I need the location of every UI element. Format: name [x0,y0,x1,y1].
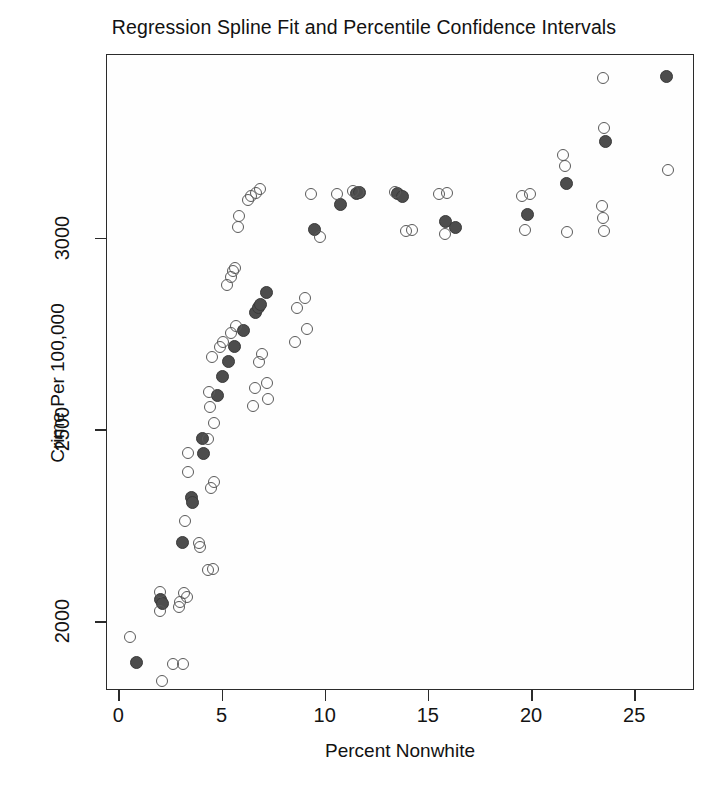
data-point-fit [130,656,143,669]
data-point-ci [301,323,313,335]
data-point-ci [305,188,317,200]
data-point-ci [194,541,206,553]
y-axis-tick-label: 2000 [36,609,88,633]
y-axis-tick [95,621,106,623]
data-point-ci [182,466,194,478]
data-point-fit [521,208,534,221]
data-point-ci [524,188,536,200]
data-point-fit [216,370,229,383]
data-point-ci [261,377,273,389]
data-point-ci [291,302,303,314]
data-point-ci [406,224,418,236]
data-point-fit [560,177,573,190]
data-point-ci [124,631,136,643]
data-point-fit [599,135,612,148]
data-point-ci [561,226,573,238]
data-point-ci [217,336,229,348]
data-point-ci [331,188,343,200]
y-axis-tick-label: 2500 [36,417,88,441]
data-point-ci [202,433,214,445]
data-point-ci [206,351,218,363]
data-point-ci [598,225,610,237]
data-point-ci [208,417,220,429]
x-axis-tick-label: 0 [88,704,148,727]
x-axis-tick-label: 10 [295,704,355,727]
data-point-fit [260,286,273,299]
data-point-ci [557,149,569,161]
x-axis-tick [634,690,636,701]
data-point-ci [229,262,241,274]
y-axis-tick-label: 3000 [36,226,88,250]
data-point-fit [228,340,241,353]
data-point-ci [154,605,166,617]
data-point-fit [197,447,210,460]
data-point-ci [519,224,531,236]
data-point-ci [441,187,453,199]
data-point-ci [662,164,674,176]
data-point-fit [334,198,347,211]
data-point-ci [249,382,261,394]
data-point-ci [154,586,166,598]
data-points-layer [107,55,693,689]
data-point-ci [389,186,401,198]
data-point-ci [439,228,451,240]
page-title: Regression Spline Fit and Percentile Con… [0,16,728,39]
x-axis-label: Percent Nonwhite [106,740,694,762]
x-axis-tick-label: 20 [501,704,561,727]
data-point-ci [233,210,245,222]
data-point-ci [208,476,220,488]
data-point-ci [314,231,326,243]
data-point-ci [352,186,364,198]
data-point-ci [598,122,610,134]
data-point-ci [254,183,266,195]
data-point-ci [597,72,609,84]
data-point-fit [660,70,673,83]
x-axis-tick [222,690,224,701]
data-point-fit [254,298,267,311]
x-axis-tick-label: 25 [604,704,664,727]
plot-panel [106,54,694,690]
data-point-ci [289,336,301,348]
data-point-ci [247,400,259,412]
y-axis-tick [95,238,106,240]
data-point-ci [597,212,609,224]
data-point-ci [179,515,191,527]
x-axis-tick [118,690,120,701]
data-point-ci [207,563,219,575]
data-point-ci [299,292,311,304]
data-point-fit [186,496,199,509]
data-point-fit [449,221,462,234]
y-axis-label: Crime Per 100,000 [47,233,69,533]
data-point-ci [232,221,244,233]
data-point-fit [176,536,189,549]
data-point-ci [181,591,193,603]
data-point-ci [182,447,194,459]
x-axis-tick [428,690,430,701]
data-point-ci [256,348,268,360]
y-axis-tick [95,429,106,431]
data-point-ci [262,393,274,405]
data-point-ci [559,160,571,172]
data-point-ci [204,401,216,413]
data-point-fit [222,355,235,368]
x-axis-tick [325,690,327,701]
x-axis-tick-label: 15 [398,704,458,727]
x-axis-tick-label: 5 [192,704,252,727]
data-point-ci [596,200,608,212]
x-axis-tick [531,690,533,701]
data-point-ci [156,675,168,687]
chart-figure: Regression Spline Fit and Percentile Con… [0,0,728,792]
data-point-ci [177,658,189,670]
